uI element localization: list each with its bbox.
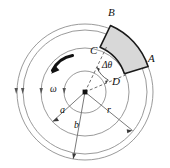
arrowhead-middle [21,88,24,94]
label-omega: ω [50,84,57,94]
label-point-d: D [111,75,120,87]
label-point-a: A [147,52,155,64]
label-delta-theta: Δθ [101,60,113,70]
label-radius-r: r [107,104,111,115]
arrowhead-inner-small [63,88,66,94]
omega-arrow [51,56,72,74]
label-point-b: B [108,6,115,18]
label-point-c: C [90,44,98,56]
dashed-radius-to-D [85,74,128,92]
physics-diagram: B A C D Δθ ω a b r [0,0,170,168]
circle-direction-arrowheads [15,88,66,94]
arrowhead-inner-a [40,88,43,94]
label-radius-a: a [60,104,65,115]
label-radius-b: b [74,119,79,130]
center-point [83,90,88,95]
